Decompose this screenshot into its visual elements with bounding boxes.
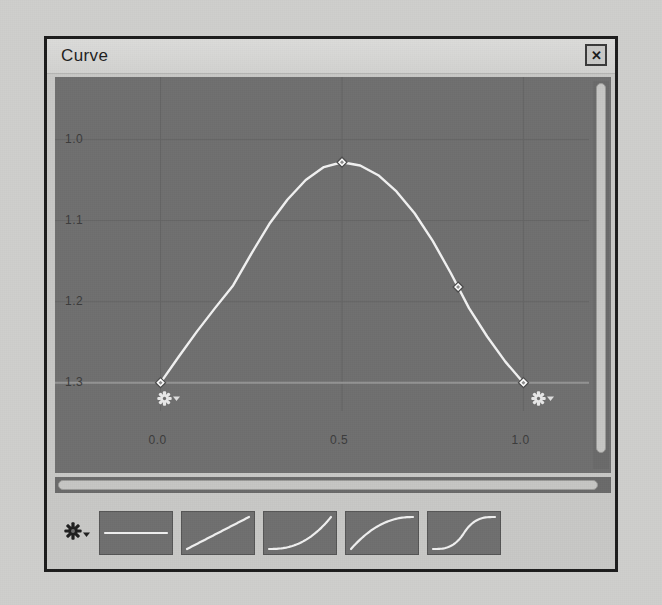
peak-point[interactable]	[337, 157, 347, 167]
curve-plot-svg[interactable]	[55, 77, 589, 473]
title-bar: Curve ✕	[47, 39, 615, 74]
y-axis-tick-label: 1.2	[65, 294, 83, 308]
gear-icon	[157, 391, 172, 406]
chevron-down-icon	[83, 524, 90, 542]
x-axis-tick-label: 1.0	[511, 433, 529, 447]
preset-ease-out[interactable]	[345, 511, 419, 555]
close-button[interactable]: ✕	[585, 44, 607, 66]
gear-icon	[531, 391, 546, 406]
page-title: Curve	[61, 46, 108, 66]
close-icon: ✕	[591, 49, 602, 62]
horizontal-scrollbar-thumb[interactable]	[58, 480, 598, 490]
mid-right-point[interactable]	[453, 282, 463, 292]
x-axis-tick-label: 0.5	[330, 433, 348, 447]
preset-ease-in[interactable]	[263, 511, 337, 555]
chevron-down-icon	[173, 395, 180, 402]
right-endpoint-options[interactable]	[531, 391, 554, 406]
left-endpoint-options[interactable]	[157, 391, 180, 406]
preset-list	[99, 511, 501, 555]
plot-area[interactable]: 1.31.21.11.00.00.51.0	[55, 77, 611, 473]
horizontal-scrollbar[interactable]	[55, 477, 611, 493]
chevron-down-icon	[547, 395, 554, 402]
y-axis-tick-label: 1.3	[65, 375, 83, 389]
preset-ease-in-out[interactable]	[427, 511, 501, 555]
y-axis-tick-label: 1.1	[65, 213, 83, 227]
vertical-scrollbar-thumb[interactable]	[596, 83, 606, 453]
curve-dialog-window: Curve ✕ 1.31.21.11.00.00.51.0	[44, 36, 618, 572]
gear-icon	[64, 522, 82, 544]
y-axis-tick-label: 1.0	[65, 132, 83, 146]
curve-canvas[interactable]	[55, 77, 589, 473]
preset-toolbar	[55, 501, 611, 565]
x-axis-tick-label: 0.0	[149, 433, 167, 447]
preset-linear[interactable]	[181, 511, 255, 555]
preset-constant[interactable]	[99, 511, 173, 555]
vertical-scrollbar[interactable]	[593, 81, 609, 469]
preset-options-button[interactable]	[55, 522, 99, 544]
